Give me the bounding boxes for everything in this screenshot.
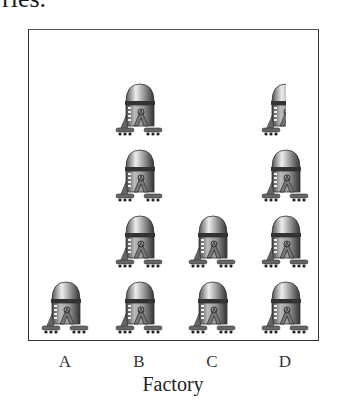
category-label-c: C	[197, 352, 227, 372]
category-label-a: A	[50, 352, 80, 372]
robot-icon	[258, 278, 312, 336]
half-robot-icon	[258, 80, 286, 138]
robot-icon	[258, 212, 312, 270]
robot-icon	[112, 146, 166, 204]
robot-icon	[112, 278, 166, 336]
cropped-caption-text: ries.	[2, 0, 46, 12]
robot-icon	[112, 80, 166, 138]
robot-icon	[38, 278, 92, 336]
robot-icon	[185, 212, 239, 270]
category-label-d: D	[270, 352, 300, 372]
robot-icon	[258, 146, 312, 204]
robot-icon	[112, 212, 166, 270]
category-label-b: B	[124, 352, 154, 372]
x-axis-label: Factory	[0, 373, 340, 396]
robot-icon	[185, 278, 239, 336]
